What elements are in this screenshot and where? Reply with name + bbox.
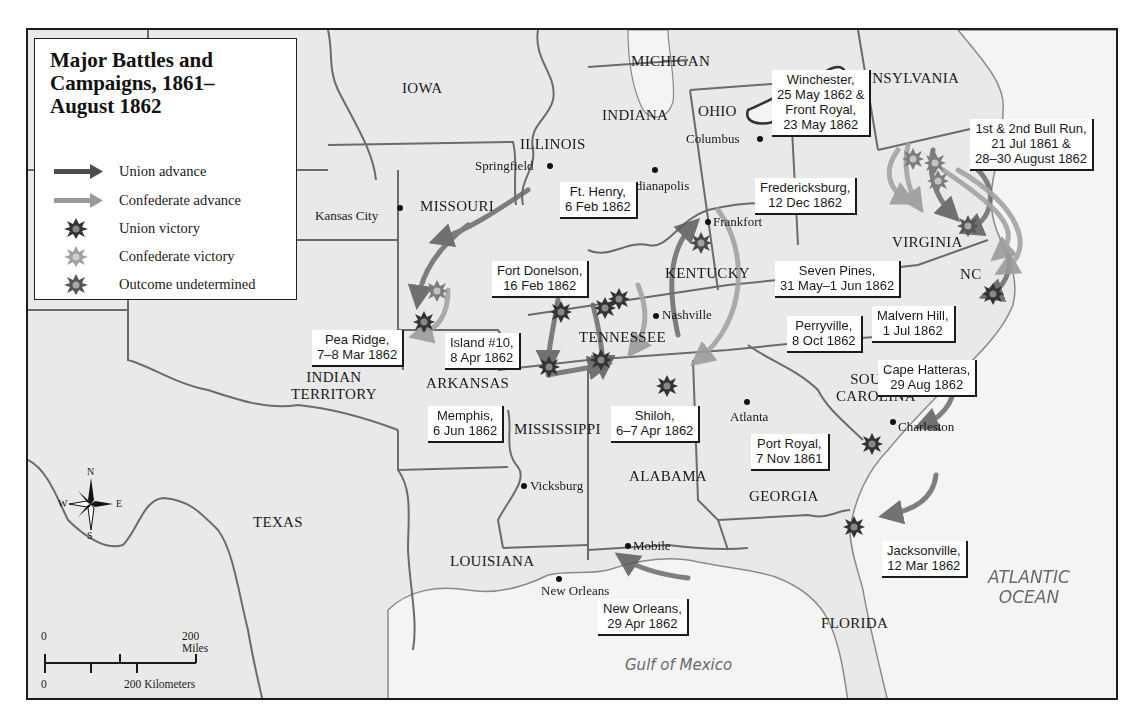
city-dot-kansas-city (397, 205, 403, 211)
battle-date: 12 Dec 1862 (760, 195, 850, 210)
battle-name: Port Royal, (756, 436, 823, 451)
battle-name: Cape Hatteras, (883, 362, 970, 377)
state-label-virginia: VIRGINIA (892, 234, 963, 251)
legend-item-confederate-victory: Confederate victory (49, 245, 235, 267)
battle-date: 8 Oct 1862 (792, 333, 856, 348)
battle-name: Malvern Hill, (877, 308, 949, 323)
outcome-undetermined-burst-icon (49, 273, 119, 295)
state-label-line: INDIAN (291, 369, 377, 386)
battle-date: 6 Jun 1862 (433, 423, 497, 438)
confederate-victory-burst-icon (426, 280, 448, 302)
battle-date: 29 Apr 1862 (603, 616, 682, 631)
legend-title-line: Major Battles and (50, 49, 215, 72)
union-victory-burst-icon (843, 516, 865, 538)
city-dot-frankfort (705, 219, 711, 225)
battle-name: Island #10, (450, 335, 514, 350)
battle-date: 25 May 1862 & (777, 87, 864, 102)
battle-callout-port-royal: Port Royal, 7 Nov 1861 (751, 434, 830, 471)
battle-name: Seven Pines, (780, 263, 894, 278)
state-label-alabama: ALABAMA (629, 468, 707, 485)
legend-title: Major Battles and Campaigns, 1861– Augus… (50, 49, 215, 118)
battle-callout-winchester-front-royal: Winchester, 25 May 1862 & Front Royal, 2… (772, 70, 871, 137)
legend-item-union-victory: Union victory (49, 217, 200, 239)
battle-date: 21 Jul 1861 & (975, 136, 1087, 151)
union-victory-burst-icon (590, 349, 612, 371)
state-label-michigan: MICHIGAN (631, 53, 710, 70)
battle-name: Perryville, (792, 318, 856, 333)
city-label-columbus: Columbus (686, 131, 739, 147)
water-label-line: OCEAN (988, 587, 1070, 607)
legend-item-label: Confederate advance (119, 192, 241, 209)
legend-item-label: Outcome undetermined (119, 276, 256, 293)
city-label-mobile: Mobile (633, 538, 671, 554)
city-dot-columbus (757, 136, 763, 142)
scale-miles-zero: 0 (41, 630, 47, 642)
battle-callout-fort-donelson: Fort Donelson, 16 Feb 1862 (492, 261, 589, 298)
state-label-arkansas: ARKANSAS (426, 375, 509, 392)
battle-name: Pea Ridge, (317, 332, 397, 347)
battle-name: Winchester, (777, 72, 864, 87)
compass-south-label: S (87, 530, 93, 541)
battle-callout-ft-henry: Ft. Henry, 6 Feb 1862 (560, 182, 638, 219)
battle-name: Memphis, (433, 408, 497, 423)
legend-item-outcome-undetermined: Outcome undetermined (49, 273, 256, 295)
city-label-charleston: Charleston (898, 419, 954, 435)
state-label-nc: NC (960, 266, 981, 283)
union-victory-burst-icon (861, 433, 883, 455)
state-label-florida: FLORIDA (821, 615, 888, 632)
city-label-kansas-city: Kansas City (315, 208, 378, 224)
union-victory-burst-icon (608, 288, 630, 310)
battle-callout-perryville: Perryville, 8 Oct 1862 (787, 316, 863, 353)
water-label-gulf-of-mexico: Gulf of Mexico (625, 656, 732, 674)
city-dot-charleston (890, 419, 896, 425)
compass-north-label: N (87, 466, 94, 477)
union-advance-arrow-icon (49, 160, 119, 182)
state-label-indiana: INDIANA (602, 107, 668, 124)
legend-title-line: August 1862 (50, 95, 215, 118)
city-dot-vicksburg (521, 483, 527, 489)
battle-callout-malvern-hill: Malvern Hill, 1 Jul 1862 (872, 306, 956, 343)
union-victory-burst-icon (413, 311, 435, 333)
battle-name: 1st & 2nd Bull Run, (975, 121, 1087, 136)
battle-name: Jacksonville, (887, 543, 961, 558)
state-label-kentucky: KENTUCKY (665, 265, 750, 282)
water-label-line: ATLANTIC (988, 567, 1070, 587)
union-victory-burst-icon (49, 217, 119, 239)
confederate-victory-burst-icon (927, 170, 949, 192)
state-label-tennessee: TENNESSEE (579, 329, 666, 346)
city-dot-new-orleans (556, 576, 562, 582)
battle-callout-memphis: Memphis, 6 Jun 1862 (428, 406, 504, 443)
union-victory-burst-icon (550, 301, 572, 323)
battle-date: 6–7 Apr 1862 (616, 423, 693, 438)
battle-callout-fredericksburg: Fredericksburg, 12 Dec 1862 (755, 178, 857, 215)
battle-date: 29 Aug 1862 (883, 377, 970, 392)
confederate-victory-burst-icon (902, 148, 924, 170)
battle-callout-pea-ridge: Pea Ridge, 7–8 Mar 1862 (312, 330, 404, 367)
state-label-illinois: ILLINOIS (520, 136, 586, 153)
compass-east-label: E (116, 498, 122, 509)
city-label-vicksburg: Vicksburg (530, 478, 583, 494)
outcome-undetermined-burst-icon (957, 215, 979, 237)
state-label-iowa: IOWA (402, 80, 442, 97)
city-dot-springfield (547, 163, 553, 169)
battle-callout-new-orleans: New Orleans, 29 Apr 1862 (598, 599, 689, 636)
legend-item-label: Confederate victory (119, 248, 235, 265)
battle-date: 7 Nov 1861 (756, 451, 823, 466)
city-label-new-orleans: New Orleans (541, 583, 609, 599)
battle-date: 1 Jul 1862 (877, 323, 949, 338)
battle-date: 6 Feb 1862 (565, 199, 631, 214)
lake-michigan-shape (628, 30, 674, 117)
union-victory-burst-icon (982, 283, 1004, 305)
legend-title-line: Campaigns, 1861– (50, 72, 215, 95)
city-dot-nashville (653, 313, 659, 319)
scale-km-zero: 0 (41, 678, 47, 690)
battle-name: New Orleans, (603, 601, 682, 616)
state-label-indian-territory: INDIAN TERRITORY (291, 369, 377, 403)
battle-date: 7–8 Mar 1862 (317, 347, 397, 362)
state-label-ohio: OHIO (698, 103, 737, 120)
battle-date: 16 Feb 1862 (497, 278, 582, 293)
battle-date: 23 May 1862 (777, 117, 864, 132)
water-label-atlantic-ocean: ATLANTIC OCEAN (988, 567, 1070, 607)
compass-rose: N S W E (60, 470, 120, 538)
city-dot-atlanta (744, 399, 750, 405)
